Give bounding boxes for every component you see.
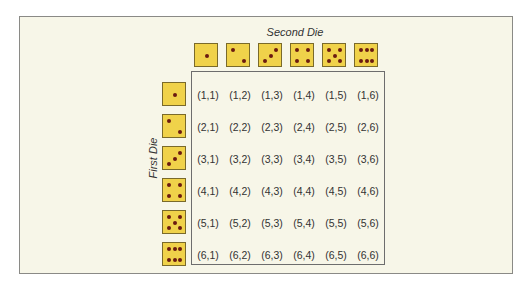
die-face-4-icon: [162, 178, 186, 202]
outcome-cell: (2,6): [352, 121, 384, 133]
die-face-3-icon: [258, 43, 282, 67]
pip-icon: [173, 247, 177, 251]
die-face-5-icon: [162, 210, 186, 234]
outcome-cell: (5,1): [192, 217, 224, 229]
pip-icon: [178, 226, 182, 230]
outcome-cell: (3,6): [352, 153, 384, 165]
die-face-1-icon: [162, 82, 186, 106]
pip-icon: [167, 247, 171, 251]
pip-icon: [167, 226, 171, 230]
outcome-cell: (2,5): [320, 121, 352, 133]
outcome-cell: (2,1): [192, 121, 224, 133]
pip-icon: [173, 93, 177, 97]
pip-icon: [295, 48, 299, 52]
outcome-cell: (1,3): [256, 89, 288, 101]
pip-icon: [178, 130, 182, 134]
pip-icon: [231, 48, 235, 52]
pip-icon: [167, 162, 171, 166]
die-face-5-icon: [322, 43, 346, 67]
outcome-cell: (6,2): [224, 249, 256, 261]
outcome-cell: (2,2): [224, 121, 256, 133]
pip-icon: [365, 48, 369, 52]
die-face-6-icon: [354, 43, 378, 67]
outcome-cell: (3,4): [288, 153, 320, 165]
outcome-cell: (5,4): [288, 217, 320, 229]
pip-icon: [306, 59, 310, 63]
die-face-6-icon: [162, 242, 186, 266]
outcome-grid: (1,1)(1,2)(1,3)(1,4)(1,5)(1,6)(2,1)(2,2)…: [191, 71, 385, 265]
pip-icon: [242, 59, 246, 63]
outcome-cell: (4,3): [256, 185, 288, 197]
pip-icon: [274, 48, 278, 52]
pip-icon: [370, 48, 374, 52]
pip-icon: [327, 48, 331, 52]
die-face-1-icon: [194, 43, 218, 67]
pip-icon: [295, 59, 299, 63]
die-face-4-icon: [290, 43, 314, 67]
outcome-cell: (4,5): [320, 185, 352, 197]
pip-icon: [178, 247, 182, 251]
outcome-cell: (6,1): [192, 249, 224, 261]
outcome-cell: (3,5): [320, 153, 352, 165]
outcome-cell: (1,2): [224, 89, 256, 101]
pip-icon: [205, 54, 209, 58]
outcome-cell: (5,6): [352, 217, 384, 229]
outcome-cell: (2,3): [256, 121, 288, 133]
pip-icon: [167, 194, 171, 198]
pip-icon: [167, 215, 171, 219]
pip-icon: [306, 48, 310, 52]
pip-icon: [269, 54, 273, 58]
die-face-2-icon: [226, 43, 250, 67]
outcome-cell: (2,4): [288, 121, 320, 133]
die-face-2-icon: [162, 114, 186, 138]
outcome-cell: (6,5): [320, 249, 352, 261]
pip-icon: [173, 258, 177, 262]
pip-icon: [178, 258, 182, 262]
outcome-cell: (5,3): [256, 217, 288, 229]
pip-icon: [263, 59, 267, 63]
outcome-cell: (6,6): [352, 249, 384, 261]
pip-icon: [338, 48, 342, 52]
pip-icon: [178, 151, 182, 155]
outcome-cell: (1,1): [192, 89, 224, 101]
pip-icon: [327, 59, 331, 63]
outcome-cell: (5,5): [320, 217, 352, 229]
second-die-label: Second Die: [255, 26, 335, 38]
pip-icon: [178, 215, 182, 219]
outcome-cell: (3,1): [192, 153, 224, 165]
outcome-cell: (3,2): [224, 153, 256, 165]
pip-icon: [365, 59, 369, 63]
outcome-cell: (4,1): [192, 185, 224, 197]
pip-icon: [333, 54, 337, 58]
pip-icon: [359, 48, 363, 52]
first-die-label: First Die: [147, 123, 159, 193]
outcome-cell: (1,4): [288, 89, 320, 101]
pip-icon: [173, 221, 177, 225]
pip-icon: [338, 59, 342, 63]
pip-icon: [370, 59, 374, 63]
outcome-cell: (1,5): [320, 89, 352, 101]
pip-icon: [178, 194, 182, 198]
outcome-cell: (4,6): [352, 185, 384, 197]
die-face-3-icon: [162, 146, 186, 170]
outcome-cell: (6,4): [288, 249, 320, 261]
pip-icon: [173, 157, 177, 161]
outcome-cell: (4,2): [224, 185, 256, 197]
outcome-cell: (6,3): [256, 249, 288, 261]
pip-icon: [167, 119, 171, 123]
outcome-cell: (1,6): [352, 89, 384, 101]
outcome-cell: (4,4): [288, 185, 320, 197]
pip-icon: [178, 183, 182, 187]
pip-icon: [359, 59, 363, 63]
pip-icon: [167, 183, 171, 187]
outcome-cell: (3,3): [256, 153, 288, 165]
pip-icon: [167, 258, 171, 262]
outcome-cell: (5,2): [224, 217, 256, 229]
